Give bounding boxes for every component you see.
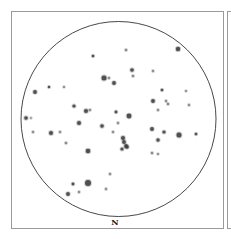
star-icon xyxy=(112,131,114,133)
star-icon xyxy=(105,188,107,190)
star-icon xyxy=(59,131,61,133)
star-icon xyxy=(157,153,159,155)
star-field xyxy=(23,46,198,197)
star-icon xyxy=(86,149,91,154)
star-icon xyxy=(165,100,167,102)
star-icon xyxy=(84,109,88,113)
star-icon xyxy=(176,47,180,51)
star-icon xyxy=(195,133,198,136)
star-icon xyxy=(78,191,80,193)
star-icon xyxy=(77,121,81,125)
star-icon xyxy=(150,127,154,131)
star-icon xyxy=(188,104,190,106)
star-icon xyxy=(92,55,95,58)
star-icon xyxy=(72,104,75,107)
star-icon xyxy=(30,117,32,119)
star-icon xyxy=(167,103,169,105)
star-icon xyxy=(63,86,65,88)
sky-map xyxy=(0,0,231,239)
horizon-circle xyxy=(21,22,216,217)
star-icon xyxy=(156,138,159,141)
star-icon xyxy=(108,77,110,79)
star-icon xyxy=(185,90,187,92)
star-icon xyxy=(33,90,37,94)
star-icon xyxy=(72,183,75,186)
star-icon xyxy=(32,131,34,133)
star-icon xyxy=(152,70,154,72)
star-icon xyxy=(125,145,129,149)
north-label: N xyxy=(107,217,123,227)
star-icon xyxy=(151,152,153,154)
star-icon xyxy=(120,147,123,150)
star-icon xyxy=(162,130,165,133)
star-icon xyxy=(115,111,118,114)
star-icon xyxy=(89,109,91,111)
star-icon xyxy=(130,68,134,72)
star-icon xyxy=(100,124,104,128)
star-icon xyxy=(48,86,50,88)
star-icon xyxy=(85,180,91,186)
star-icon xyxy=(102,76,107,81)
star-icon xyxy=(66,192,70,196)
star-icon xyxy=(65,142,67,144)
star-icon xyxy=(24,116,28,120)
star-icon xyxy=(151,99,155,103)
star-icon xyxy=(161,89,164,92)
star-icon xyxy=(177,133,182,138)
star-icon xyxy=(157,109,159,111)
star-icon xyxy=(127,114,132,119)
star-icon xyxy=(112,81,116,85)
star-icon xyxy=(132,75,134,77)
star-icon xyxy=(125,49,127,51)
star-icon xyxy=(117,122,119,124)
star-icon xyxy=(49,131,53,135)
star-icon xyxy=(109,173,111,175)
